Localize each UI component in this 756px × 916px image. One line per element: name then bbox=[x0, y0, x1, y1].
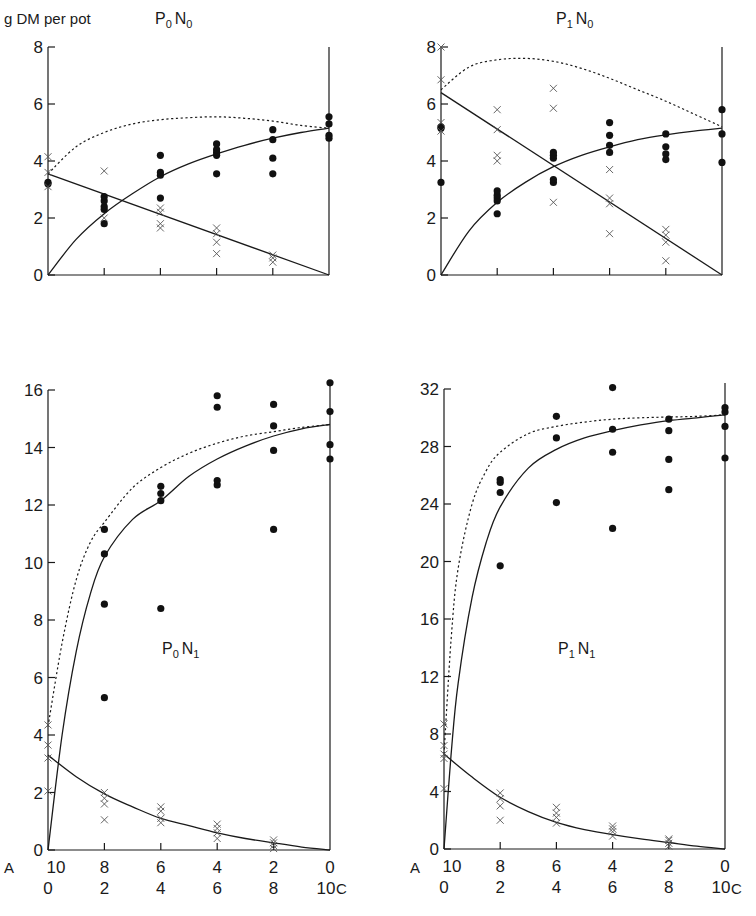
y-tick-label: 2 bbox=[34, 784, 43, 803]
total-fit-curve bbox=[441, 58, 722, 126]
data-point-cross bbox=[606, 230, 613, 237]
data-point-dot bbox=[553, 413, 560, 420]
x-tick-label-a: 0 bbox=[720, 857, 729, 876]
data-point-dot bbox=[437, 179, 444, 186]
data-point-dot bbox=[213, 140, 220, 147]
y-tick-label: 8 bbox=[430, 725, 439, 744]
data-point-cross bbox=[101, 167, 108, 174]
panel-p0n0: P0N0 02468 bbox=[34, 10, 333, 285]
x-tick-label-a: 2 bbox=[664, 857, 673, 876]
data-point-dot bbox=[497, 476, 504, 483]
data-point-dot bbox=[214, 392, 221, 399]
y-tick-label: 0 bbox=[34, 841, 43, 860]
data-point-dot bbox=[157, 605, 164, 612]
data-point-dot bbox=[101, 601, 108, 608]
y-tick-label: 8 bbox=[34, 38, 43, 57]
data-point-dot bbox=[325, 120, 332, 127]
data-point-dot bbox=[553, 434, 560, 441]
chart-canvas: g DM per pot P0N0 02468 P1N0 02468 P0N1 … bbox=[0, 0, 756, 916]
data-point-dot bbox=[550, 176, 557, 183]
fit-curve bbox=[48, 128, 329, 275]
data-point-dot bbox=[665, 486, 672, 493]
x-tick-label-c: 8 bbox=[664, 878, 673, 897]
data-point-cross bbox=[101, 795, 108, 802]
svg-text:P1N0: P1N0 bbox=[556, 10, 593, 30]
data-point-dot bbox=[270, 526, 277, 533]
x-tick-label-a: 6 bbox=[552, 857, 561, 876]
fit-curve bbox=[48, 755, 330, 850]
data-point-dot bbox=[269, 126, 276, 133]
panel-p0n1: P0N1 024681012141610082644628010 bbox=[24, 379, 335, 898]
x-tick-label-a: 8 bbox=[495, 857, 504, 876]
data-point-cross bbox=[662, 226, 669, 233]
y-tick-label: 16 bbox=[420, 610, 439, 629]
data-point-dot bbox=[157, 490, 164, 497]
fit-curve bbox=[441, 128, 722, 275]
data-point-dot bbox=[497, 562, 504, 569]
y-tick-label: 6 bbox=[34, 95, 43, 114]
x-tick-label-c: 2 bbox=[100, 879, 109, 898]
panel-title: P1N1 bbox=[558, 640, 595, 660]
data-point-cross bbox=[494, 158, 501, 165]
data-point-dot bbox=[553, 499, 560, 506]
total-fit-curve bbox=[48, 425, 330, 727]
data-point-dot bbox=[213, 170, 220, 177]
fit-curve bbox=[441, 93, 722, 275]
data-point-dot bbox=[157, 483, 164, 490]
a-yield-points bbox=[45, 721, 278, 852]
panel-p1n1: P1N1 04812162024283210082644628010 bbox=[420, 380, 730, 897]
y-tick-label: 2 bbox=[427, 209, 436, 228]
data-point-dot bbox=[44, 179, 51, 186]
data-point-cross bbox=[550, 105, 557, 112]
x-axis-a-label: A bbox=[410, 859, 420, 876]
panel-p1n0: P1N0 02468 bbox=[427, 10, 726, 285]
data-point-dot bbox=[494, 210, 501, 217]
data-point-dot bbox=[326, 408, 333, 415]
data-point-cross bbox=[213, 224, 220, 231]
panel-title: P0N0 bbox=[155, 10, 192, 30]
data-point-dot bbox=[157, 497, 164, 504]
data-point-cross bbox=[157, 220, 164, 227]
data-point-cross bbox=[494, 106, 501, 113]
y-tick-label: 12 bbox=[24, 496, 43, 515]
c-yield-points bbox=[497, 384, 729, 569]
x-tick-label-a: 0 bbox=[325, 858, 334, 877]
data-point-dot bbox=[325, 132, 332, 139]
data-point-dot bbox=[214, 477, 221, 484]
data-point-dot bbox=[101, 550, 108, 557]
x-tick-label-c: 0 bbox=[43, 879, 52, 898]
data-point-cross bbox=[550, 85, 557, 92]
x-tick-label-c: 2 bbox=[495, 878, 504, 897]
x-tick-label-c: 4 bbox=[552, 878, 561, 897]
svg-text:P1N1: P1N1 bbox=[558, 640, 595, 660]
axes: 02468 bbox=[34, 38, 329, 285]
x-tick-label-c: 4 bbox=[156, 879, 165, 898]
figure: g DM per pot P0N0 02468 P1N0 02468 P0N1 … bbox=[0, 0, 756, 916]
data-point-dot bbox=[606, 142, 613, 149]
data-point-dot bbox=[609, 525, 616, 532]
y-tick-label: 24 bbox=[420, 495, 439, 514]
y-tick-label: 8 bbox=[34, 611, 43, 630]
x-tick-label-c: 10 bbox=[317, 879, 336, 898]
data-point-cross bbox=[665, 835, 672, 842]
data-point-cross bbox=[101, 801, 108, 808]
y-tick-label: 10 bbox=[24, 554, 43, 573]
data-point-dot bbox=[609, 384, 616, 391]
data-point-dot bbox=[269, 136, 276, 143]
data-point-cross bbox=[662, 257, 669, 264]
svg-text:P0N1: P0N1 bbox=[162, 640, 199, 660]
data-point-dot bbox=[270, 401, 277, 408]
data-point-dot bbox=[270, 447, 277, 454]
data-point-dot bbox=[101, 220, 108, 227]
x-tick-label-a: 4 bbox=[608, 857, 617, 876]
y-tick-label: 4 bbox=[34, 726, 43, 745]
data-point-cross bbox=[494, 126, 501, 133]
data-point-cross bbox=[494, 152, 501, 159]
svg-text:P0N0: P0N0 bbox=[155, 10, 192, 30]
y-tick-label: 6 bbox=[34, 669, 43, 688]
y-axis-label: g DM per pot bbox=[4, 10, 92, 27]
data-point-dot bbox=[157, 194, 164, 201]
data-point-dot bbox=[718, 130, 725, 137]
data-point-dot bbox=[550, 149, 557, 156]
data-point-dot bbox=[662, 150, 669, 157]
